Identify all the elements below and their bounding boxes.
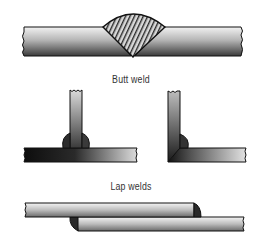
l-fillet xyxy=(180,134,188,148)
lap-weld-left xyxy=(70,217,78,231)
lap-weld-figure xyxy=(25,203,244,231)
t-fillet-right xyxy=(82,133,89,148)
t-fillet-left xyxy=(63,133,70,148)
lap-weld-right xyxy=(194,203,201,217)
weld-types-diagram xyxy=(0,0,262,251)
t-joint-fillet-figure xyxy=(24,90,137,162)
lap-bottom-plate xyxy=(76,217,244,231)
butt-weld-label: Butt weld xyxy=(16,74,247,85)
corner-joint-fillet-figure xyxy=(168,91,246,162)
lap-welds-label: Lap welds xyxy=(16,181,247,192)
lap-top-plate xyxy=(25,203,194,217)
butt-weld-figure xyxy=(23,14,243,57)
l-base-plate xyxy=(168,148,246,162)
t-stem-plate xyxy=(70,90,82,148)
t-base-plate xyxy=(24,148,137,162)
